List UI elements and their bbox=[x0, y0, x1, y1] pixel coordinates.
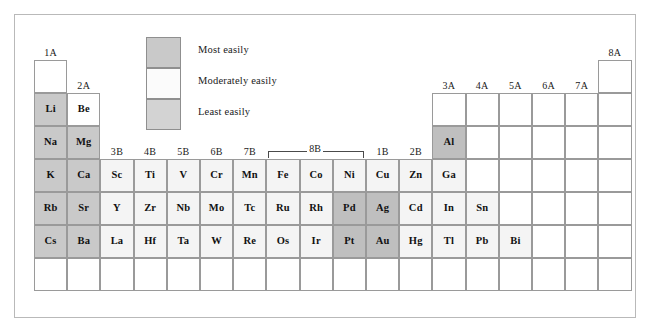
group-label-3b: 3B bbox=[100, 146, 133, 157]
element-cell-li: Li bbox=[34, 93, 67, 126]
element-cell-ir: Ir bbox=[300, 225, 333, 258]
group-label-4b: 4B bbox=[134, 146, 167, 157]
element-cell-cr: Cr bbox=[200, 159, 233, 192]
element-cell-mn: Mn bbox=[233, 159, 266, 192]
element-cell-co: Co bbox=[300, 159, 333, 192]
group-label-5b: 5B bbox=[167, 146, 200, 157]
element-cell-empty bbox=[67, 258, 100, 291]
element-cell-hg: Hg bbox=[399, 225, 432, 258]
element-cell-ba: Ba bbox=[67, 225, 100, 258]
element-cell-empty bbox=[466, 126, 499, 159]
element-cell-mg: Mg bbox=[67, 126, 100, 159]
element-cell-ga: Ga bbox=[432, 159, 465, 192]
element-cell-empty bbox=[598, 258, 631, 291]
element-cell-empty bbox=[499, 126, 532, 159]
element-cell-empty bbox=[499, 159, 532, 192]
group-label-1b: 1B bbox=[366, 146, 399, 157]
element-cell-v: V bbox=[167, 159, 200, 192]
element-cell-zr: Zr bbox=[134, 192, 167, 225]
element-cell-empty bbox=[300, 258, 333, 291]
element-cell-sr: Sr bbox=[67, 192, 100, 225]
element-cell-pd: Pd bbox=[333, 192, 366, 225]
element-cell-empty bbox=[333, 258, 366, 291]
element-cell-empty bbox=[499, 93, 532, 126]
element-cell-be: Be bbox=[67, 93, 100, 126]
element-cell-y: Y bbox=[100, 192, 133, 225]
group-label-2b: 2B bbox=[399, 146, 432, 157]
element-cell-ta: Ta bbox=[167, 225, 200, 258]
element-cell-empty bbox=[233, 258, 266, 291]
group-label-6b: 6B bbox=[200, 146, 233, 157]
element-cell-empty bbox=[499, 258, 532, 291]
element-cell-empty bbox=[565, 225, 598, 258]
group-label-2a: 2A bbox=[67, 80, 100, 91]
element-cell-empty bbox=[266, 258, 299, 291]
element-cell-tc: Tc bbox=[233, 192, 266, 225]
element-cell-empty bbox=[598, 192, 631, 225]
element-cell-zn: Zn bbox=[399, 159, 432, 192]
legend-label-most: Most easily bbox=[198, 44, 249, 55]
element-cell-rb: Rb bbox=[34, 192, 67, 225]
element-cell-sc: Sc bbox=[100, 159, 133, 192]
element-cell-rh: Rh bbox=[300, 192, 333, 225]
element-cell-re: Re bbox=[233, 225, 266, 258]
element-cell-empty bbox=[532, 126, 565, 159]
element-cell-empty bbox=[432, 93, 465, 126]
element-cell-empty bbox=[598, 93, 631, 126]
element-cell-cs: Cs bbox=[34, 225, 67, 258]
element-cell-k: K bbox=[34, 159, 67, 192]
element-cell-pt: Pt bbox=[333, 225, 366, 258]
element-cell-mo: Mo bbox=[200, 192, 233, 225]
element-cell-empty bbox=[565, 192, 598, 225]
element-cell-empty bbox=[167, 258, 200, 291]
group-label-3a: 3A bbox=[432, 80, 465, 91]
group-label-7a: 7A bbox=[565, 80, 598, 91]
element-cell-os: Os bbox=[266, 225, 299, 258]
group-label-5a: 5A bbox=[499, 80, 532, 91]
element-cell-empty bbox=[499, 192, 532, 225]
element-cell-empty bbox=[532, 159, 565, 192]
element-cell-empty bbox=[34, 258, 67, 291]
element-cell-ru: Ru bbox=[266, 192, 299, 225]
element-cell-empty bbox=[565, 159, 598, 192]
element-cell-w: W bbox=[200, 225, 233, 258]
element-cell-hf: Hf bbox=[134, 225, 167, 258]
group-label-1a: 1A bbox=[34, 47, 67, 58]
figure-frame: Most easilyModerately easilyLeast easily… bbox=[14, 14, 636, 318]
group-label-8b: 8B bbox=[307, 144, 323, 154]
group-label-6a: 6A bbox=[532, 80, 565, 91]
element-cell-al: Al bbox=[432, 126, 465, 159]
element-cell-empty bbox=[399, 258, 432, 291]
group-label-4a: 4A bbox=[466, 80, 499, 91]
element-cell-bi: Bi bbox=[499, 225, 532, 258]
element-cell-empty bbox=[100, 258, 133, 291]
element-cell-empty bbox=[134, 258, 167, 291]
periodic-table-grid: LiBeNaMgAlKCaScTiVCrMnFeCoNiCuZnGaRbSrYZ… bbox=[34, 60, 632, 307]
element-cell-cu: Cu bbox=[366, 159, 399, 192]
element-cell-empty bbox=[34, 60, 67, 93]
element-cell-la: La bbox=[100, 225, 133, 258]
element-cell-na: Na bbox=[34, 126, 67, 159]
element-cell-empty bbox=[532, 93, 565, 126]
element-cell-empty bbox=[466, 159, 499, 192]
element-cell-nb: Nb bbox=[167, 192, 200, 225]
element-cell-ni: Ni bbox=[333, 159, 366, 192]
element-cell-empty bbox=[532, 258, 565, 291]
element-cell-empty bbox=[565, 126, 598, 159]
group-label-8a: 8A bbox=[598, 47, 631, 58]
element-cell-ag: Ag bbox=[366, 192, 399, 225]
element-cell-in: In bbox=[432, 192, 465, 225]
element-cell-pb: Pb bbox=[466, 225, 499, 258]
element-cell-sn: Sn bbox=[466, 192, 499, 225]
element-cell-empty bbox=[532, 192, 565, 225]
element-cell-au: Au bbox=[366, 225, 399, 258]
element-cell-empty bbox=[598, 159, 631, 192]
element-cell-empty bbox=[565, 258, 598, 291]
bracket-tick-right bbox=[363, 151, 364, 158]
element-cell-empty bbox=[366, 258, 399, 291]
element-cell-empty bbox=[200, 258, 233, 291]
element-cell-tl: Tl bbox=[432, 225, 465, 258]
element-cell-empty bbox=[466, 258, 499, 291]
element-cell-empty bbox=[598, 60, 631, 93]
group-bracket-8b: 8B bbox=[268, 143, 364, 153]
